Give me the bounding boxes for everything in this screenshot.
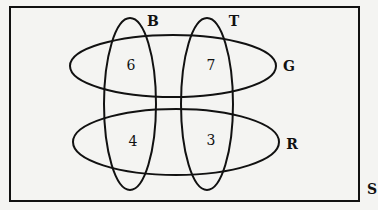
region-t-g-value: 7 xyxy=(207,57,216,73)
set-r-ellipse xyxy=(73,109,279,175)
region-t-r-value: 3 xyxy=(207,132,216,148)
venn-diagram: B T G R 6 7 4 3 S xyxy=(0,0,378,210)
set-g-label: G xyxy=(283,58,295,74)
universal-set-label: S xyxy=(367,181,377,197)
set-g-ellipse xyxy=(70,35,276,97)
set-t-ellipse xyxy=(181,18,233,190)
set-t-label: T xyxy=(229,13,240,29)
set-b-ellipse xyxy=(104,18,156,190)
set-b-label: B xyxy=(147,13,159,29)
region-b-g-value: 6 xyxy=(127,57,136,73)
region-b-r-value: 4 xyxy=(129,133,138,149)
set-r-label: R xyxy=(286,136,298,152)
